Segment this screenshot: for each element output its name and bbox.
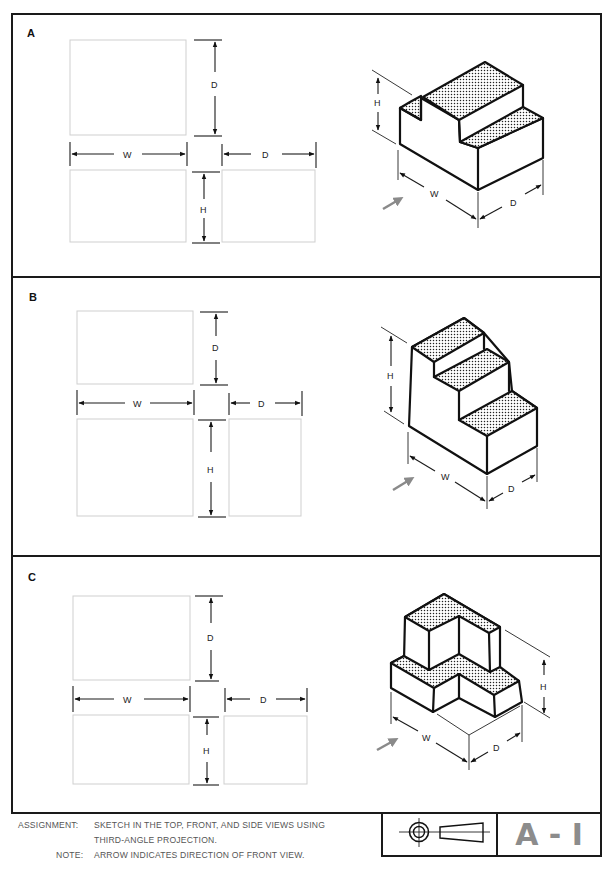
svg-text:D: D — [211, 80, 218, 90]
panel-b: B D W D H — [29, 291, 537, 517]
dimension-height: H — [193, 717, 219, 785]
svg-text:D: D — [260, 695, 267, 705]
svg-text:H: H — [374, 98, 381, 108]
assignment-line-2: THIRD-ANGLE PROJECTION. — [94, 835, 217, 845]
isometric-object-a: H W D — [372, 62, 543, 228]
svg-text:W: W — [422, 733, 431, 743]
worksheet-sheet: A D W D — [0, 0, 613, 875]
dimension-side-depth: D — [222, 142, 316, 168]
front-view-box[interactable] — [70, 170, 186, 242]
dimension-top-depth: D — [195, 596, 223, 681]
note-text: ARROW INDICATES DIRECTION OF FRONT VIEW. — [94, 850, 305, 860]
dimension-width: W — [70, 142, 187, 166]
svg-text:H: H — [387, 371, 394, 381]
title-block: A - I — [382, 813, 601, 856]
svg-text:H: H — [200, 205, 207, 215]
assignment-line-1: SKETCH IN THE TOP, FRONT, AND SIDE VIEWS… — [94, 820, 325, 830]
dimension-top-depth: D — [200, 312, 228, 385]
svg-text:H: H — [207, 465, 214, 475]
panel-label-a: A — [27, 27, 35, 39]
dimension-height: H — [192, 172, 220, 243]
assignment-label: ASSIGNMENT: — [18, 820, 78, 830]
svg-text:W: W — [430, 189, 439, 199]
note-label: NOTE: — [56, 850, 83, 860]
top-view-box[interactable] — [73, 596, 190, 680]
front-view-box[interactable] — [73, 715, 189, 784]
svg-text:D: D — [510, 198, 517, 208]
svg-text:W: W — [123, 150, 132, 160]
svg-text:D: D — [493, 743, 500, 753]
svg-text:W: W — [441, 472, 450, 482]
svg-text:D: D — [262, 150, 269, 160]
svg-text:H: H — [540, 682, 547, 692]
isometric-object-b: H W D — [381, 318, 537, 509]
sheet-code: A - I — [515, 817, 583, 852]
side-view-box[interactable] — [222, 170, 315, 242]
dimension-height: H — [198, 420, 226, 517]
front-view-box[interactable] — [77, 419, 193, 516]
svg-text:D: D — [212, 343, 219, 353]
panel-label-c: C — [28, 571, 36, 583]
panel-a: A D W D — [27, 27, 543, 243]
svg-text:D: D — [258, 399, 265, 409]
side-view-box[interactable] — [229, 419, 301, 516]
svg-text:H: H — [203, 746, 210, 756]
dimension-width: W — [77, 390, 194, 415]
isometric-object-c: W D H — [377, 594, 550, 770]
dimension-side-depth: D — [229, 391, 302, 416]
top-view-box[interactable] — [77, 311, 193, 384]
third-angle-projection-icon — [399, 818, 490, 847]
dimension-side-depth: D — [225, 688, 307, 712]
top-view-box[interactable] — [70, 40, 186, 135]
front-view-arrow-icon — [393, 479, 411, 490]
svg-text:W: W — [133, 399, 142, 409]
svg-text:D: D — [508, 484, 515, 494]
panel-label-b: B — [29, 291, 37, 303]
panel-c: C D W D H — [28, 571, 550, 785]
side-view-box[interactable] — [224, 716, 307, 784]
svg-text:W: W — [123, 695, 132, 705]
dimension-top-depth: D — [194, 40, 222, 136]
svg-text:D: D — [207, 633, 214, 643]
front-view-arrow-icon — [377, 740, 395, 750]
front-view-arrow-icon — [383, 199, 400, 209]
dimension-width: W — [73, 686, 190, 712]
